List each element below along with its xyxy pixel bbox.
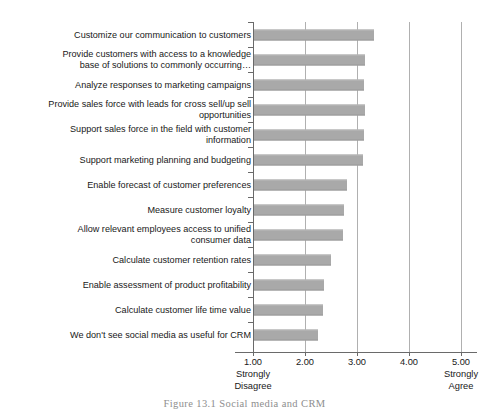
chart-row: Customize our communication to customers	[0, 22, 489, 47]
bar	[254, 104, 365, 115]
y-tick	[248, 22, 253, 23]
category-label: Analyze responses to marketing campaigns	[19, 79, 251, 90]
category-label: Enable assessment of product profitabili…	[19, 279, 251, 290]
chart-row: Support marketing planning and budgeting	[0, 147, 489, 172]
chart-row: We don't see social media as useful for …	[0, 322, 489, 347]
category-label: Support sales force in the field with cu…	[19, 124, 251, 146]
y-tick	[248, 322, 253, 323]
bar	[254, 129, 364, 140]
chart-row: Measure customer loyalty	[0, 197, 489, 222]
x-tick	[461, 352, 462, 356]
scale-anchor-high: Strongly Agree	[421, 369, 489, 392]
chart-row: Calculate customer life time value	[0, 297, 489, 322]
category-label: Calculate customer life time value	[19, 304, 251, 315]
x-tick-label: 2.00	[283, 357, 327, 367]
figure-caption: Figure 13.1 Social media and CRM	[0, 398, 489, 409]
category-label: Provide customers with access to a knowl…	[19, 49, 251, 71]
bar	[254, 304, 323, 315]
chart-row: Enable forecast of customer preferences	[0, 172, 489, 197]
category-label: Calculate customer retention rates	[19, 254, 251, 265]
y-tick	[248, 272, 253, 273]
chart-row: Provide customers with access to a knowl…	[0, 47, 489, 72]
chart-row: Support sales force in the field with cu…	[0, 122, 489, 147]
bar	[254, 229, 343, 240]
bar	[254, 154, 363, 165]
x-tick	[409, 352, 410, 356]
y-tick	[248, 147, 253, 148]
y-tick	[248, 72, 253, 73]
chart-row: Calculate customer retention rates	[0, 247, 489, 272]
x-axis-line	[235, 352, 477, 353]
x-tick	[253, 352, 254, 356]
bar	[254, 179, 347, 190]
bar	[254, 329, 318, 340]
bar	[254, 54, 365, 65]
x-tick	[305, 352, 306, 356]
y-tick	[248, 297, 253, 298]
category-label: Allow relevant employees access to unifi…	[19, 224, 251, 246]
figure-social-media-and-crm: Customize our communication to customers…	[0, 0, 489, 413]
category-label: Support marketing planning and budgeting	[19, 154, 251, 165]
bar	[254, 254, 331, 265]
y-tick	[248, 172, 253, 173]
bar	[254, 29, 374, 40]
x-tick-label: 4.00	[387, 357, 431, 367]
x-tick-label: 1.00	[231, 357, 275, 367]
bar	[254, 204, 344, 215]
category-label: Customize our communication to customers	[19, 29, 251, 40]
category-label: We don't see social media as useful for …	[19, 329, 251, 340]
x-tick	[357, 352, 358, 356]
y-tick	[248, 197, 253, 198]
bar	[254, 279, 324, 290]
chart-row: Enable assessment of product profitabili…	[0, 272, 489, 297]
chart-row: Analyze responses to marketing campaigns	[0, 72, 489, 97]
chart-row: Provide sales force with leads for cross…	[0, 97, 489, 122]
chart-row: Allow relevant employees access to unifi…	[0, 222, 489, 247]
category-label: Provide sales force with leads for cross…	[19, 99, 251, 121]
bar	[254, 79, 364, 90]
y-tick	[248, 247, 253, 248]
x-tick-label: 3.00	[335, 357, 379, 367]
scale-anchor-low: Strongly Disagree	[213, 369, 293, 392]
x-tick-label: 5.00	[439, 357, 483, 367]
category-label: Measure customer loyalty	[19, 204, 251, 215]
category-label: Enable forecast of customer preferences	[19, 179, 251, 190]
